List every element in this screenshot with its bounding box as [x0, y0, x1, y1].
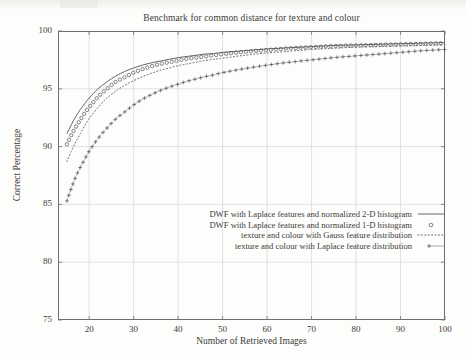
legend-entry-2: DWF with Laplace features and normalized… [175, 220, 445, 231]
y-tick-label-100: 100 [26, 25, 52, 35]
plot-canvas [0, 0, 466, 353]
legend-label: texture and colour with Gauss feature di… [241, 230, 412, 240]
legend-key-dotted-line [417, 230, 445, 240]
legend-entry-1: DWF with Laplace features and normalized… [175, 209, 445, 220]
series-2 [65, 42, 442, 146]
axis-ticks [58, 31, 445, 320]
x-tick-label-80: 80 [341, 324, 371, 334]
y-tick-label-80: 80 [26, 256, 52, 266]
series-3 [67, 45, 445, 162]
x-tick-label-50: 50 [208, 324, 238, 334]
series-1 [67, 43, 445, 134]
legend-key-solid-line [417, 209, 445, 219]
x-tick-label-90: 90 [386, 324, 416, 334]
x-tick-label-20: 20 [74, 324, 104, 334]
x-tick-label-100: 100 [430, 324, 460, 334]
legend-entry-4: texture and colour with Laplace feature … [175, 241, 445, 252]
legend-label: DWF with Laplace features and normalized… [209, 209, 412, 219]
legend-label: DWF with Laplace features and normalized… [209, 220, 412, 230]
x-axis-label: Number of Retrieved Images [58, 336, 445, 346]
legend-key-circle-marker [417, 220, 445, 230]
chart-legend: DWF with Laplace features and normalized… [175, 209, 445, 251]
x-tick-label-40: 40 [163, 324, 193, 334]
y-tick-label-75: 75 [26, 314, 52, 324]
y-tick-label-95: 95 [26, 83, 52, 93]
data-series-layer [65, 42, 447, 203]
y-tick-label-90: 90 [26, 141, 52, 151]
y-axis-label: Correct Percentage [12, 110, 22, 220]
series-4 [65, 48, 447, 203]
y-tick-label-85: 85 [26, 198, 52, 208]
x-tick-label-70: 70 [297, 324, 327, 334]
legend-entry-3: texture and colour with Gauss feature di… [175, 230, 445, 241]
x-tick-label-60: 60 [252, 324, 282, 334]
x-tick-label-30: 30 [119, 324, 149, 334]
legend-label: texture and colour with Laplace feature … [235, 241, 412, 251]
legend-key-plus-marker [417, 241, 445, 251]
chart-figure: Benchmark for common distance for textur… [0, 0, 466, 353]
